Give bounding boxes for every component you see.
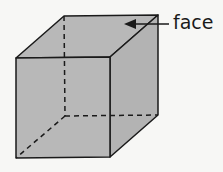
cube-diagram: face	[0, 0, 223, 172]
face-label: face	[173, 11, 213, 33]
cube	[16, 15, 158, 158]
front-face	[16, 57, 110, 158]
